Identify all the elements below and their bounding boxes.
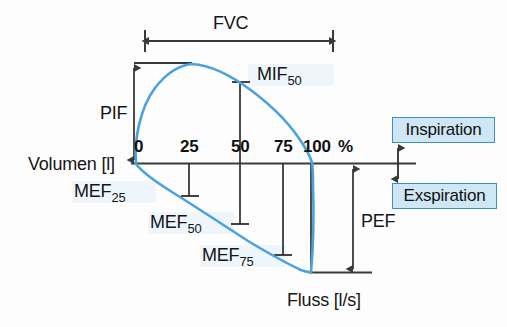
fvc-label: FVC (213, 14, 248, 32)
mif50-base: MIF (257, 64, 287, 84)
pif-label: PIF (100, 104, 127, 122)
tick-label-75: 75 (274, 138, 293, 155)
pef-label: PEF (361, 212, 395, 230)
mef25-base: MEF (74, 181, 111, 201)
x-axis-label: Fluss [l/s] (287, 291, 361, 309)
mef50-sub: 50 (187, 221, 201, 236)
percent-unit-label: % (338, 138, 353, 155)
inspiration-box: Inspiration (392, 117, 495, 143)
tick-label-0: 0 (134, 138, 143, 155)
tick-label-50: 50 (231, 138, 250, 155)
flow-volume-curve (136, 64, 314, 273)
mef50-label: MEF50 (150, 213, 201, 236)
mef50-base: MEF (150, 212, 187, 232)
fvc-span-arrow (145, 30, 333, 52)
tick-label-25: 25 (180, 138, 199, 155)
mef75-sub: 75 (239, 254, 253, 269)
flow-volume-loop-figure: FVC PIF MIF50 Volumen [l] 0 25 50 75 100… (0, 0, 507, 327)
mef75-label: MEF75 (202, 246, 253, 269)
mef25-label: MEF25 (74, 182, 125, 205)
exspiration-box: Exspiration (392, 183, 497, 209)
mef75-base: MEF (202, 245, 239, 265)
y-axis-label: Volumen [l] (28, 155, 115, 173)
mif50-label: MIF50 (257, 65, 301, 88)
mif50-sub: 50 (287, 73, 301, 88)
mef25-sub: 25 (111, 190, 125, 205)
tick-label-100: 100 (303, 138, 331, 155)
